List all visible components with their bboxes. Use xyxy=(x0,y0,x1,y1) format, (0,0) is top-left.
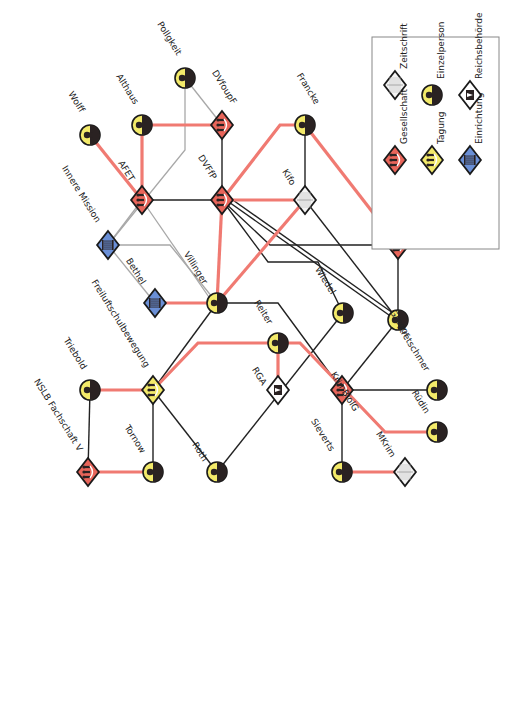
node-label: Sieverts xyxy=(309,417,337,454)
person-icon xyxy=(132,115,152,135)
edge-black xyxy=(153,390,217,472)
edge-red xyxy=(217,200,222,303)
node-label: Wolff xyxy=(66,90,87,115)
edge-black xyxy=(342,320,398,390)
person-icon xyxy=(207,293,227,313)
node-pollgkeit[interactable]: Pollgkeit xyxy=(155,20,195,88)
edge-red xyxy=(90,135,142,200)
node-label: MKrim xyxy=(374,429,398,459)
edge-gray xyxy=(108,245,155,303)
node-label: Innere Mission xyxy=(60,164,103,224)
node-label: Bethel xyxy=(124,256,148,286)
person-icon xyxy=(143,462,163,482)
node-label: Wiedel xyxy=(313,265,338,296)
node-reiter[interactable]: Reiter xyxy=(252,298,288,353)
legend-label: Gesellschaft xyxy=(399,88,409,144)
node-mkrim[interactable]: MKrim xyxy=(374,429,416,486)
person-icon xyxy=(295,115,315,135)
node-label: Tornow xyxy=(122,422,148,455)
edge-red xyxy=(222,125,305,200)
legend-label: Zeitschrift xyxy=(399,23,409,69)
reichsbehoerde-icon xyxy=(267,376,289,404)
node-label: Pollgkeit xyxy=(155,20,184,58)
node-label: Kretschmer xyxy=(396,324,432,373)
node-triebold[interactable]: Triebold xyxy=(61,335,100,400)
legend-label: Einzelperson xyxy=(436,21,446,79)
node-francke[interactable]: Francke xyxy=(295,71,322,135)
edge-black xyxy=(226,200,396,320)
person-icon xyxy=(207,462,227,482)
person-icon xyxy=(333,303,353,323)
node-innere[interactable]: Innere Mission xyxy=(60,164,119,259)
network-diagram: PollgkeitWolffAlthausDVfoupFFranckeAFETD… xyxy=(0,0,523,710)
node-kretschmer[interactable]: Kretschmer xyxy=(396,324,447,400)
person-icon xyxy=(80,125,100,145)
node-label: RGA xyxy=(250,365,269,387)
node-rga[interactable]: RGA xyxy=(250,365,289,404)
edge-gray xyxy=(142,200,213,303)
person-icon xyxy=(427,380,447,400)
person-icon xyxy=(175,68,195,88)
person-icon xyxy=(80,380,100,400)
diagram-canvas: PollgkeitWolffAlthausDVfoupFFranckeAFETD… xyxy=(0,0,523,710)
node-label: DVfoupF xyxy=(210,68,239,106)
node-label: Villinger xyxy=(182,250,210,287)
node-krimbiolg[interactable]: KrimBiolG xyxy=(329,370,361,413)
node-wolff[interactable]: Wolff xyxy=(66,90,100,145)
node-label: Althaus xyxy=(114,72,141,106)
person-icon xyxy=(268,333,288,353)
node-althaus[interactable]: Althaus xyxy=(114,72,152,135)
node-label: Francke xyxy=(295,71,322,106)
gesellschaft-icon xyxy=(77,458,99,486)
node-bethel[interactable]: Bethel xyxy=(124,256,166,317)
node-sieverts[interactable]: Sieverts xyxy=(309,417,352,482)
node-dvfoupf[interactable]: DVfoupF xyxy=(210,68,239,139)
edge-red xyxy=(153,343,437,432)
node-dvffp[interactable]: DVFfP xyxy=(196,153,233,214)
person-icon xyxy=(427,422,447,442)
node-label: Kifo xyxy=(280,167,298,187)
legend-label: Reichsbehörde xyxy=(474,12,484,79)
node-label: DVFfP xyxy=(196,153,219,181)
node-label: Freiluftschulbewegung xyxy=(90,278,152,369)
person-icon xyxy=(422,85,442,105)
legend: GesellschaftZeitschriftTagungEinzelperso… xyxy=(372,12,499,249)
node-label: NSLB Fachschaft V xyxy=(32,377,85,454)
edge-black xyxy=(153,303,217,390)
node-label: Triebold xyxy=(61,335,89,371)
zeitschrift-icon xyxy=(394,458,416,486)
edge-red xyxy=(217,200,305,303)
legend-label: Tagung xyxy=(436,112,446,145)
person-icon xyxy=(332,462,352,482)
node-afet[interactable]: AFET xyxy=(116,159,153,214)
